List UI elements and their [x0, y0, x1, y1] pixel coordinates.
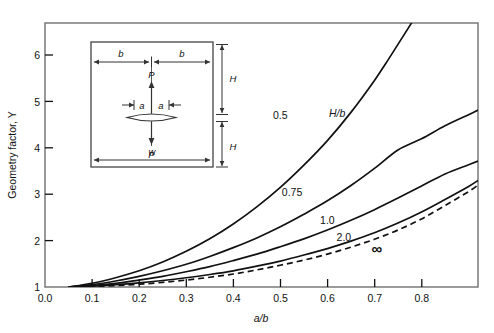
- y-axis-title: Geometry factor, Y: [6, 111, 18, 198]
- curve-label-infinity: ∞: [371, 240, 382, 257]
- chart-svg: 6 5 4 3 2 1 Geometry factor, Y: [0, 0, 494, 333]
- x-tick-label: 0.6: [320, 292, 335, 304]
- curve-label-2.0: 2.0: [337, 231, 352, 243]
- x-axis-title: a/b: [254, 312, 269, 324]
- x-tick-label: 0.0: [38, 292, 53, 304]
- curve-label-0.5: 0.5: [273, 109, 288, 121]
- curve-label-1.0: 1.0: [320, 214, 335, 226]
- label-a-right: a: [158, 100, 163, 111]
- x-tick-label: 0.1: [85, 292, 100, 304]
- x-tick-label: 0.5: [273, 292, 288, 304]
- label-b-left: b: [118, 48, 123, 59]
- label-w: w: [149, 146, 157, 157]
- y-tick-label: 2: [34, 235, 40, 247]
- x-tick-label: 0.7: [367, 292, 382, 304]
- x-tick-0: 0.0: [38, 292, 53, 304]
- curve-group-title: H/b: [329, 107, 346, 119]
- label-b-right: b: [179, 48, 184, 59]
- label-H-top: H: [230, 73, 237, 84]
- y-tick-label: 3: [34, 188, 40, 200]
- label-P-top: P: [148, 69, 155, 80]
- y-tick-label: 5: [34, 96, 40, 108]
- label-H-bottom: H: [230, 141, 237, 152]
- figure-container: 6 5 4 3 2 1 Geometry factor, Y: [0, 0, 494, 333]
- y-tick-label: 6: [34, 49, 40, 61]
- x-tick-label: 0.2: [132, 292, 147, 304]
- y-tick-label: 4: [34, 142, 40, 154]
- plot-frame: [45, 23, 478, 287]
- x-tick-label: 0.8: [414, 292, 429, 304]
- curve-label-0.75: 0.75: [282, 186, 303, 198]
- x-tick-label: 0.4: [226, 292, 241, 304]
- x-tick-label: 0.3: [179, 292, 194, 304]
- label-a-left: a: [139, 100, 144, 111]
